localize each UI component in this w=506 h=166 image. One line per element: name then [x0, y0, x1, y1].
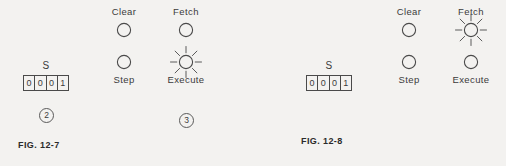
- register-label: S: [23, 60, 69, 72]
- lamp-clear-indicator[interactable]: [94, 18, 154, 42]
- register-cell: 0: [318, 76, 329, 90]
- lamp-lit-icon: [167, 43, 205, 81]
- lamp-execute[interactable]: Execute: [156, 50, 216, 86]
- lamp-execute-indicator[interactable]: [441, 50, 501, 74]
- register-box: 0 0 0 1: [306, 75, 352, 91]
- callout-3: 3: [179, 113, 194, 128]
- lamp-clear-label: Clear: [379, 6, 439, 18]
- figure-12-8: S 0 0 0 1 Clear Fetch: [253, 0, 506, 166]
- lamp-fetch-label: Fetch: [156, 6, 216, 18]
- lamp-step[interactable]: Step: [94, 50, 154, 86]
- lamp-unlit-icon: [174, 18, 198, 42]
- register-cell: 1: [341, 76, 351, 90]
- lamp-panel: Clear Fetch: [379, 6, 506, 116]
- register-cell: 0: [47, 76, 58, 90]
- figure-caption: FIG. 12-7: [18, 140, 60, 150]
- register-s: S 0 0 0 1: [306, 60, 352, 91]
- lamp-step-label: Step: [94, 74, 154, 86]
- lamp-clear-indicator[interactable]: [379, 18, 439, 42]
- lamp-unlit-icon: [397, 18, 421, 42]
- figure-page: S 0 0 0 1 2 Clear Fetc: [0, 0, 506, 166]
- lamp-step[interactable]: Step: [379, 50, 439, 86]
- lamp-unlit-icon: [112, 18, 136, 42]
- lamp-fetch-indicator[interactable]: [156, 18, 216, 42]
- lamp-execute-indicator[interactable]: [156, 50, 216, 74]
- register-cell: 0: [307, 76, 318, 90]
- lamp-clear-label: Clear: [94, 6, 154, 18]
- lamp-fetch[interactable]: Fetch: [156, 6, 216, 42]
- callout-2: 2: [39, 108, 54, 123]
- lamp-fetch-indicator[interactable]: [441, 18, 501, 42]
- register-cell: 0: [330, 76, 341, 90]
- lamp-execute[interactable]: Execute: [441, 50, 501, 86]
- register-cell: 0: [24, 76, 35, 90]
- register-label: S: [306, 60, 352, 72]
- lamp-lit-icon: [452, 11, 490, 49]
- lamp-execute-label: Execute: [441, 74, 501, 86]
- lamp-unlit-icon: [112, 50, 136, 74]
- lamp-step-indicator[interactable]: [379, 50, 439, 74]
- lamp-step-label: Step: [379, 74, 439, 86]
- lamp-fetch[interactable]: Fetch: [441, 6, 501, 42]
- register-cell: 0: [35, 76, 46, 90]
- lamp-clear[interactable]: Clear: [94, 6, 154, 42]
- lamp-clear[interactable]: Clear: [379, 6, 439, 42]
- figure-caption: FIG. 12-8: [301, 136, 343, 146]
- lamp-step-indicator[interactable]: [94, 50, 154, 74]
- register-s: S 0 0 0 1: [23, 60, 69, 91]
- register-box: 0 0 0 1: [23, 75, 69, 91]
- lamp-unlit-icon: [397, 50, 421, 74]
- register-cell: 1: [58, 76, 68, 90]
- figure-12-7: S 0 0 0 1 2 Clear Fetc: [0, 0, 253, 166]
- lamp-panel: Clear Fetch: [94, 6, 244, 116]
- lamp-unlit-icon: [459, 50, 483, 74]
